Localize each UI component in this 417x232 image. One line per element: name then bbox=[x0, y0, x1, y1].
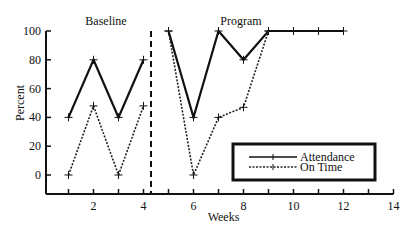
data-point-attendance bbox=[115, 113, 123, 121]
x-tick-label: 12 bbox=[338, 199, 350, 213]
axes: 0204060801002468101214BaselineProgram bbox=[23, 14, 400, 213]
x-axis-title: Weeks bbox=[208, 210, 240, 224]
y-tick-label: 80 bbox=[29, 53, 41, 67]
y-tick-label: 100 bbox=[23, 24, 41, 38]
legend-label-on-time: On Time bbox=[300, 160, 342, 174]
data-point-attendance bbox=[290, 27, 298, 35]
legend: AttendanceOn Time bbox=[233, 144, 375, 180]
y-tick-label: 40 bbox=[29, 110, 41, 124]
series-line-on-time bbox=[69, 106, 144, 175]
data-point-on-time bbox=[65, 171, 73, 179]
data-point-attendance bbox=[90, 56, 98, 64]
x-tick-label: 8 bbox=[241, 199, 247, 213]
data-point-on-time bbox=[90, 102, 98, 110]
phase-label: Baseline bbox=[85, 14, 126, 28]
x-tick-label: 2 bbox=[91, 199, 97, 213]
data-point-on-time bbox=[140, 102, 148, 110]
y-tick-label: 60 bbox=[29, 82, 41, 96]
data-point-attendance bbox=[65, 113, 73, 121]
data-point-attendance bbox=[315, 27, 323, 35]
x-tick-label: 14 bbox=[388, 199, 400, 213]
data-point-attendance bbox=[140, 56, 148, 64]
y-tick-label: 20 bbox=[29, 139, 41, 153]
data-point-attendance bbox=[340, 27, 348, 35]
x-tick-label: 6 bbox=[191, 199, 197, 213]
data-point-on-time bbox=[115, 171, 123, 179]
x-tick-label: 4 bbox=[141, 199, 147, 213]
y-tick-label: 0 bbox=[35, 168, 41, 182]
data-point-on-time bbox=[165, 27, 173, 35]
phase-label: Program bbox=[220, 14, 262, 28]
data-point-on-time bbox=[240, 103, 248, 111]
data-point-on-time bbox=[190, 171, 198, 179]
data-point-on-time bbox=[215, 113, 223, 121]
chart: 0204060801002468101214BaselineProgram We… bbox=[0, 0, 417, 232]
y-axis-title: Percent bbox=[13, 84, 27, 121]
series-line-attendance bbox=[69, 60, 144, 118]
data-point-attendance bbox=[190, 113, 198, 121]
series-line-attendance bbox=[169, 31, 344, 117]
x-tick-label: 10 bbox=[288, 199, 300, 213]
